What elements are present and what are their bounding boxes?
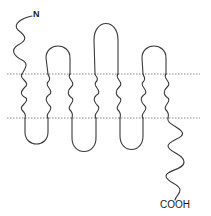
transmembrane-helix-5: [116, 74, 121, 118]
extracellular-loop-3: [142, 46, 166, 74]
transmembrane-helix-3: [68, 74, 73, 118]
n-terminus-label: N: [33, 10, 40, 19]
transmembrane-helix-4: [94, 74, 99, 118]
transmembrane-helix-1: [21, 74, 27, 118]
transmembrane-helix-6: [141, 74, 146, 118]
extracellular-loop-1: [46, 46, 70, 74]
c-terminus-label: COOH: [160, 200, 190, 210]
membrane-topology-svg: [0, 0, 211, 216]
n-terminal-tail: [14, 16, 32, 74]
c-terminal-tail: [166, 118, 184, 200]
transmembrane-helix-2: [46, 74, 51, 118]
intracellular-loop-1: [25, 118, 48, 144]
intracellular-loop-3: [120, 118, 143, 150]
extracellular-loop-2: [94, 24, 118, 75]
intracellular-loop-2: [72, 118, 96, 152]
membrane-boundaries: [7, 74, 200, 118]
transmembrane-helix-7: [164, 74, 169, 118]
